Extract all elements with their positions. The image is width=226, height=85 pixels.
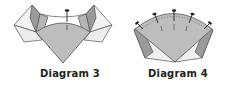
pin-head-icon <box>172 9 176 11</box>
diagram-3-caption: Diagram 3 <box>40 68 100 79</box>
pin-head-icon <box>152 12 157 15</box>
center-fan <box>36 23 90 63</box>
diagram-3: Diagram 3 <box>0 0 113 85</box>
diagram-4: Diagram 4 <box>113 0 226 85</box>
pin-head-icon <box>190 12 195 15</box>
diagram-4-caption: Diagram 4 <box>148 68 208 79</box>
pin-head-icon <box>65 9 70 12</box>
diagram-3-illustration <box>0 0 113 65</box>
diagram-4-illustration <box>113 0 226 65</box>
